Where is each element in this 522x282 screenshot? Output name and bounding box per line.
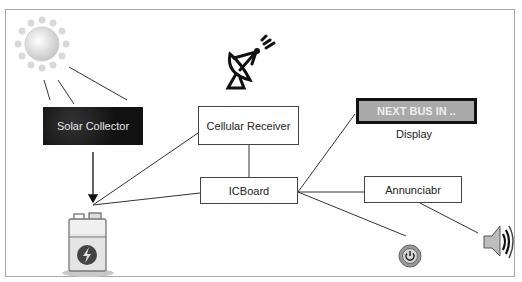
speaker-icon xyxy=(482,220,516,264)
satellite-dish-icon xyxy=(222,34,278,92)
sun-icon xyxy=(12,14,72,74)
display-screen-text: NEXT BUS IN .. xyxy=(377,105,456,117)
display-screen-node: NEXT BUS IN .. xyxy=(356,98,477,124)
ic-board-node: ICBoard xyxy=(200,177,298,204)
solar-collector-node: Solar Collector xyxy=(43,107,143,145)
cellular-receiver-node: Cellular Receiver xyxy=(198,106,299,145)
solar-collector-label: Solar Collector xyxy=(57,120,129,132)
annunciator-node: Annunciabr xyxy=(364,176,462,203)
ic-board-label: ICBoard xyxy=(229,185,269,197)
power-button-icon xyxy=(398,244,422,268)
cellular-receiver-label: Cellular Receiver xyxy=(207,120,291,132)
battery-icon xyxy=(60,212,116,278)
display-label: Display xyxy=(396,128,432,140)
annunciator-label: Annunciabr xyxy=(385,184,441,196)
